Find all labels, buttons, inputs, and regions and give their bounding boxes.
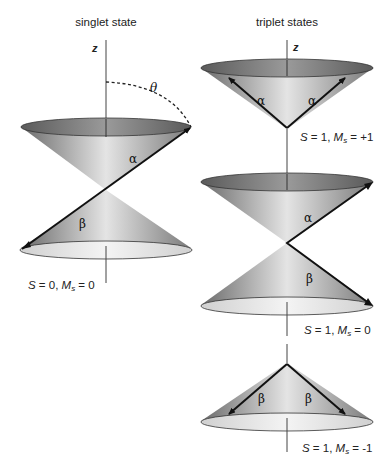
alpha-label-2: α — [308, 94, 316, 108]
alpha-label-1: α — [257, 94, 265, 108]
z-axis-label: z — [91, 42, 98, 54]
lower-cone — [201, 243, 373, 305]
beta-label: β — [306, 272, 313, 286]
singlet-state-label: S = 0, Ms = 0 — [28, 279, 95, 293]
vector-model-diagram: singlet state triplet states z θ α β S =… — [0, 0, 390, 468]
triplet-minus1-label: S = 1, Ms = -1 — [302, 442, 373, 456]
singlet-diagram: z θ α β S = 0, Ms = 0 — [20, 40, 192, 293]
beta-label-2: β — [305, 392, 312, 406]
triplet-plus1-diagram: z α α S = 1, Ms = +1 — [201, 40, 373, 148]
theta-label: θ — [150, 81, 158, 95]
singlet-title: singlet state — [75, 16, 136, 28]
z-axis-label: z — [292, 41, 299, 53]
alpha-label: α — [129, 152, 137, 166]
triplet-title: triplet states — [256, 16, 318, 28]
triplet-0-diagram: α β S = 1, Ms = 0 — [201, 148, 373, 338]
triplet-minus1-diagram: β β S = 1, Ms = -1 — [201, 344, 373, 456]
lower-cone — [21, 190, 191, 248]
beta-label: β — [79, 217, 86, 231]
alpha-label: α — [304, 211, 312, 225]
beta-label-1: β — [258, 392, 265, 406]
cone — [201, 363, 373, 421]
triplet-plus1-label: S = 1, Ms = +1 — [300, 131, 373, 145]
triplet-0-label: S = 1, Ms = 0 — [304, 324, 371, 338]
